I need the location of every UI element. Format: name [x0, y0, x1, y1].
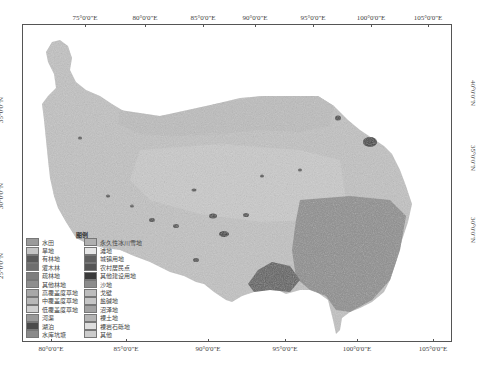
- longitude-tick-top: 95°0'0"E: [300, 14, 325, 22]
- legend-swatch: [84, 297, 97, 305]
- legend-item: 其他: [84, 330, 142, 338]
- legend-left-column: 水田 旱地 有林地 灌木林 疏林地 其他林地 高覆盖度草地 中覆盖度草地 低覆盖…: [26, 238, 78, 339]
- legend-item: 沙地: [84, 280, 142, 288]
- legend-swatch: [84, 330, 97, 338]
- legend-swatch: [84, 263, 97, 271]
- legend-swatch: [26, 280, 39, 288]
- longitude-tick-bottom: 95°0'0"E: [272, 345, 297, 353]
- legend-swatch: [26, 272, 39, 280]
- legend-swatch: [84, 322, 97, 330]
- legend-item: 水库坑塘: [26, 330, 78, 338]
- latitude-tick-right: 40°0'0"N: [469, 80, 477, 106]
- latitude-tick-left: 35°0'0"N: [0, 97, 5, 123]
- legend-swatch: [84, 289, 97, 297]
- longitude-tick-bottom: 100°0'0"E: [343, 345, 372, 353]
- legend-swatch: [84, 272, 97, 280]
- map-legend: 图例 水田 旱地 有林地 灌木林 疏林地 其他林地 高覆盖度草地 中覆盖度草地 …: [26, 230, 166, 340]
- latitude-tick-left: 30°0'0"N: [0, 183, 5, 209]
- longitude-tick-bottom: 90°0'0"E: [195, 345, 220, 353]
- latitude-tick-right: 30°0'0"N: [469, 217, 477, 243]
- longitude-tick-bottom: 80°0'0"E: [38, 345, 63, 353]
- longitude-tick-top: 80°0'0"E: [132, 14, 157, 22]
- legend-swatch: [84, 255, 97, 263]
- latitude-tick-right: 35°0'0"N: [469, 145, 477, 171]
- legend-item: 裸岩石砾地: [84, 322, 142, 330]
- legend-item: 其他建设用地: [84, 272, 142, 280]
- legend-swatch: [84, 314, 97, 322]
- legend-swatch: [84, 238, 97, 246]
- legend-swatch: [26, 305, 39, 313]
- legend-swatch: [84, 247, 97, 255]
- longitude-tick-top: 90°0'0"E: [242, 14, 267, 22]
- legend-swatch: [84, 305, 97, 313]
- legend-right-column: 永久性冰川雪地 滩地 城镇用地 农村居民点 其他建设用地 沙地 戈壁 盐碱地 沼…: [84, 238, 142, 339]
- legend-swatch: [26, 322, 39, 330]
- legend-swatch: [26, 297, 39, 305]
- longitude-tick-bottom: 85°0'0"E: [113, 345, 138, 353]
- longitude-tick-top: 100°0'0"E: [357, 14, 386, 22]
- longitude-tick-top: 75°0'0"E: [72, 14, 97, 22]
- longitude-tick-top: 105°0'0"E: [414, 14, 443, 22]
- legend-swatch: [26, 314, 39, 322]
- legend-swatch: [26, 263, 39, 271]
- legend-swatch: [84, 280, 97, 288]
- legend-swatch: [26, 247, 39, 255]
- legend-swatch: [26, 238, 39, 246]
- legend-swatch: [26, 255, 39, 263]
- longitude-tick-bottom: 105°0'0"E: [419, 345, 448, 353]
- legend-swatch: [26, 330, 39, 338]
- latitude-tick-left: 25°0'0"N: [0, 253, 5, 279]
- longitude-tick-top: 85°0'0"E: [190, 14, 215, 22]
- legend-swatch: [26, 289, 39, 297]
- legend-item: 永久性冰川雪地: [84, 238, 142, 246]
